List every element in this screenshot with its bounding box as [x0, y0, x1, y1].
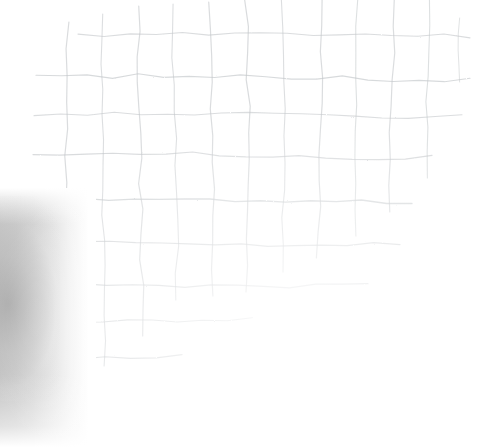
grid-line-h-4 [33, 152, 432, 160]
grid-line-v-3 [101, 14, 106, 366]
grid-line-v-4 [137, 6, 144, 336]
grid-line-v-11 [389, 0, 395, 212]
grid-line-h-7 [28, 284, 368, 288]
grid-line-v-5 [172, 4, 179, 300]
grid-line-v-12 [426, 0, 430, 178]
scanned-grid-page [0, 0, 500, 447]
grid-line-h-2 [36, 74, 470, 82]
grid-line-h-10 [27, 431, 60, 432]
pencil-grid [0, 0, 500, 447]
grid-line-h-6 [30, 241, 400, 246]
grid-line-v-8 [281, 0, 285, 272]
grid-line-v-13 [458, 18, 460, 82]
grid-line-h-3 [34, 112, 462, 118]
grid-line-h-1 [78, 33, 470, 38]
grid-line-h-8 [28, 318, 252, 322]
grid-line-v-7 [245, 0, 251, 292]
grid-line-v-2 [65, 22, 71, 370]
grid-line-v-6 [209, 2, 215, 296]
grid-line-v-1 [29, 203, 33, 444]
grid-line-v-9 [316, 0, 322, 258]
vertical-grid-lines [29, 0, 459, 444]
